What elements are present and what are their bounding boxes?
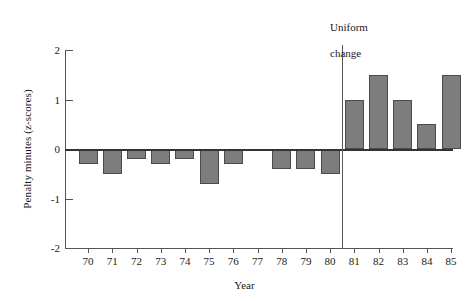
- y-tick-label-neg1: -1: [38, 193, 60, 205]
- x-tick-mark-75: [209, 248, 210, 253]
- uniform-change-annotation: Uniform change: [330, 8, 368, 73]
- x-tick-mark-81: [354, 248, 355, 253]
- x-tick-mark-70: [88, 248, 89, 253]
- bar-73: [151, 149, 170, 164]
- x-tick-label-70: 70: [76, 255, 100, 267]
- x-tick-mark-84: [427, 248, 428, 253]
- x-tick-mark-80: [330, 248, 331, 253]
- x-tick-label-74: 74: [173, 255, 197, 267]
- y-tick-mark-neg2: [66, 248, 73, 249]
- x-tick-label-81: 81: [342, 255, 366, 267]
- x-tick-label-72: 72: [125, 255, 149, 267]
- uniform-change-line: [342, 45, 343, 248]
- x-tick-mark-82: [379, 248, 380, 253]
- bar-71: [103, 149, 122, 174]
- bar-82: [369, 75, 388, 149]
- x-tick-label-82: 82: [367, 255, 391, 267]
- uniform-change-line-1: Uniform: [330, 21, 368, 34]
- plot-area: [65, 50, 453, 248]
- x-tick-mark-74: [185, 248, 186, 253]
- x-tick-label-78: 78: [270, 255, 294, 267]
- y-tick-label-1: 1: [38, 94, 60, 106]
- penalty-minutes-bar-chart: Penalty minutes (z-scores) 2 1 0 -1 -2 7…: [0, 0, 471, 301]
- bar-76: [224, 149, 243, 164]
- x-tick-label-84: 84: [415, 255, 439, 267]
- x-tick-mark-73: [161, 248, 162, 253]
- x-axis-title: Year: [0, 279, 471, 291]
- x-tick-mark-83: [403, 248, 404, 253]
- x-tick-mark-77: [258, 248, 259, 253]
- bar-78: [272, 149, 291, 169]
- x-tick-mark-71: [112, 248, 113, 253]
- x-tick-label-77: 77: [246, 255, 270, 267]
- x-tick-label-83: 83: [391, 255, 415, 267]
- bar-70: [79, 149, 98, 164]
- x-tick-mark-78: [282, 248, 283, 253]
- x-tick-mark-76: [233, 248, 234, 253]
- y-tick-mark-neg1: [66, 199, 73, 200]
- y-tick-mark-2: [66, 50, 73, 51]
- bar-83: [393, 100, 412, 150]
- x-axis-line: [65, 248, 453, 249]
- x-tick-label-76: 76: [221, 255, 245, 267]
- x-tick-label-80: 80: [318, 255, 342, 267]
- x-tick-mark-72: [137, 248, 138, 253]
- x-tick-label-71: 71: [100, 255, 124, 267]
- uniform-change-line-2: change: [330, 47, 368, 60]
- x-tick-label-73: 73: [149, 255, 173, 267]
- x-axis-title-text: Year: [234, 279, 254, 291]
- bar-81: [345, 100, 364, 150]
- x-tick-label-85: 85: [439, 255, 463, 267]
- x-tick-mark-85: [451, 248, 452, 253]
- y-tick-label-0: 0: [38, 143, 60, 155]
- y-tick-label-2: 2: [38, 44, 60, 56]
- bar-79: [296, 149, 315, 169]
- x-tick-label-79: 79: [294, 255, 318, 267]
- x-tick-mark-79: [306, 248, 307, 253]
- zero-baseline: [65, 149, 453, 151]
- x-tick-label-75: 75: [197, 255, 221, 267]
- y-tick-mark-1: [66, 100, 73, 101]
- bar-80: [321, 149, 340, 174]
- bar-84: [417, 124, 436, 149]
- bar-85: [442, 75, 461, 149]
- y-tick-label-neg2: -2: [38, 242, 60, 254]
- bar-75: [200, 149, 219, 184]
- y-axis-title: Penalty minutes (z-scores): [21, 89, 33, 208]
